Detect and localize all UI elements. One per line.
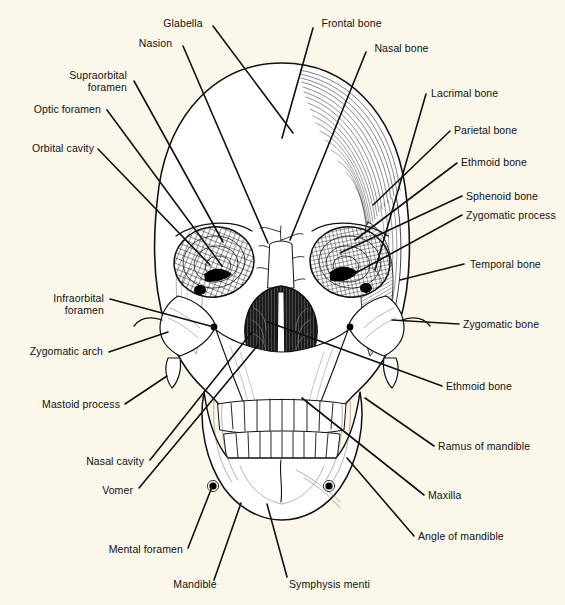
- leader-line-zygomatic-arch: [109, 332, 168, 352]
- label-zygomatic-bone: Zygomatic bone: [463, 318, 555, 330]
- left-mental-foramen: [209, 482, 216, 489]
- leader-line-angle-of-mandible: [347, 458, 414, 536]
- label-nasion: Nasion: [133, 37, 178, 49]
- label-infraorbital-foramen: Infraorbital foramen: [31, 292, 104, 316]
- skull-drawing: [134, 63, 430, 520]
- right-infraorbital-foramen: [347, 324, 354, 331]
- skull-diagram-figure: GlabellaNasionFrontal boneNasal boneSupr…: [0, 0, 565, 605]
- label-mandible: Mandible: [168, 578, 222, 590]
- label-sphenoid-bone: Sphenoid bone: [466, 190, 552, 202]
- label-maxilla: Maxilla: [428, 489, 476, 501]
- right-optic-foramen: [360, 283, 372, 293]
- leader-line-mastoid-process: [125, 376, 167, 404]
- label-orbital-cavity: Orbital cavity: [14, 142, 94, 154]
- label-symphysis-menti: Symphysis menti: [289, 578, 387, 590]
- label-optic-foramen: Optic foramen: [20, 103, 101, 115]
- label-nasal-cavity: Nasal cavity: [66, 455, 144, 467]
- label-zygomatic-arch: Zygomatic arch: [13, 345, 103, 357]
- label-lacrimal-bone: Lacrimal bone: [431, 87, 514, 99]
- nasal-bones: [268, 241, 294, 288]
- right-mental-foramen: [325, 482, 332, 489]
- label-angle-of-mandible: Angle of mandible: [418, 530, 520, 542]
- label-vomer: Vomer: [91, 484, 133, 496]
- label-ethmoid-bone-lower: Ethmoid bone: [446, 380, 529, 392]
- left-optic-foramen: [194, 285, 206, 295]
- label-zygomatic-process: Zygomatic process: [466, 209, 565, 221]
- label-mastoid-process: Mastoid process: [24, 398, 120, 410]
- label-glabella: Glabella: [157, 17, 209, 29]
- label-parietal-bone: Parietal bone: [454, 124, 534, 136]
- label-supraorbital-foramen: Supraorbital foramen: [54, 69, 127, 93]
- label-mental-foramen: Mental foramen: [91, 543, 183, 555]
- label-temporal-bone: Temporal bone: [470, 258, 558, 270]
- leader-line-ramus-of-mandible: [365, 398, 434, 446]
- leader-line-mental-foramen: [188, 487, 212, 548]
- label-frontal-bone: Frontal bone: [315, 17, 388, 29]
- label-ramus-of-mandible: Ramus of mandible: [438, 440, 542, 452]
- label-ethmoid-bone-upper: Ethmoid bone: [461, 156, 544, 168]
- leader-line-mandible: [214, 503, 241, 580]
- label-nasal-bone: Nasal bone: [368, 42, 435, 54]
